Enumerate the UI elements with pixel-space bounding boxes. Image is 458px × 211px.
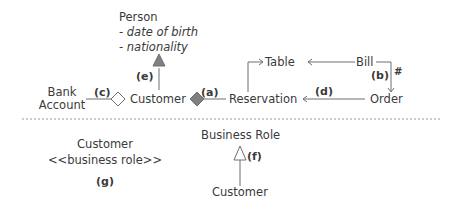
marker-b-hash: #	[394, 65, 402, 78]
marker-c: (c)	[94, 86, 111, 99]
marker-e: (e)	[136, 70, 154, 83]
bank-account-label-line2: Account	[38, 99, 86, 112]
hollow-triangle-icon	[234, 146, 246, 160]
person-class-title: Person	[119, 11, 158, 24]
marker-f: (f)	[247, 150, 262, 163]
hollow-diamond-icon	[111, 92, 125, 106]
business-role-node: Business Role	[201, 129, 280, 142]
bill-node: Bill	[356, 56, 373, 69]
marker-a: (a)	[201, 86, 218, 99]
person-attribute-date-of-birth: - date of birth	[119, 26, 198, 39]
business-role-stereotype: <<business role>>	[46, 154, 164, 167]
filled-triangle-icon	[153, 54, 165, 66]
customer-node: Customer	[130, 93, 186, 106]
customer-specialization-node: Customer	[212, 186, 268, 199]
order-node: Order	[370, 93, 403, 106]
reservation-table-line	[248, 62, 262, 92]
marker-d: (d)	[315, 85, 333, 98]
marker-b: (b)	[371, 69, 389, 82]
table-node: Table	[265, 56, 295, 69]
marker-g: (g)	[90, 175, 120, 188]
reservation-node: Reservation	[229, 93, 297, 106]
customer-role-label: Customer	[50, 138, 160, 151]
person-attribute-nationality: - nationality	[119, 41, 188, 54]
